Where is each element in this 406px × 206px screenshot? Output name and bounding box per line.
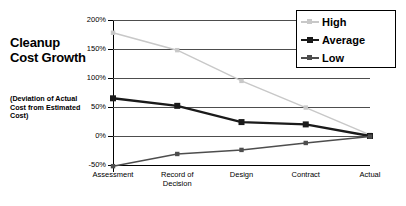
legend-label-low: Low — [322, 52, 344, 64]
x-axis-line — [113, 165, 370, 166]
gridline — [113, 136, 370, 137]
y-axis-tick — [108, 165, 113, 166]
chart-container: Cleanup Cost Growth (Deviation of Actual… — [0, 0, 406, 206]
data-point-average — [303, 121, 309, 127]
data-point-low — [239, 148, 243, 152]
y-axis-label: 200% — [76, 15, 106, 24]
legend-label-high: High — [322, 16, 346, 28]
y-axis-label: -50% — [76, 160, 106, 169]
x-axis-label: Assessment — [82, 170, 144, 179]
data-point-low — [304, 141, 308, 145]
legend-swatch-low — [301, 52, 319, 64]
series-line-average — [113, 98, 370, 136]
y-axis-tick — [108, 107, 113, 108]
legend-marker-average-icon — [307, 37, 313, 43]
y-axis-label: 50% — [76, 102, 106, 111]
y-axis-tick — [108, 136, 113, 137]
y-axis-tick — [108, 49, 113, 50]
y-axis-line — [113, 20, 114, 172]
x-axis-label: Design — [211, 170, 273, 179]
x-axis-label: Actual — [339, 170, 401, 179]
y-axis-label: 0% — [76, 131, 106, 140]
gridline — [113, 107, 370, 108]
y-axis-tick — [108, 20, 113, 21]
legend-item-average[interactable]: Average — [301, 31, 365, 48]
x-axis-label: Contract — [275, 170, 337, 179]
legend-swatch-average — [301, 34, 319, 46]
legend-item-high[interactable]: High — [301, 13, 346, 30]
legend-label-average: Average — [322, 34, 365, 46]
y-axis-tick — [108, 78, 113, 79]
series-line-low — [113, 137, 370, 167]
x-axis-label: Record ofDecision — [146, 170, 208, 188]
gridline — [113, 78, 370, 79]
legend-marker-low-icon — [307, 55, 312, 60]
legend-swatch-high — [301, 16, 319, 28]
y-axis-label: 150% — [76, 44, 106, 53]
data-point-low — [175, 152, 179, 156]
chart-legend: High Average Low — [296, 10, 396, 68]
legend-marker-high-icon — [307, 19, 312, 24]
data-point-average — [239, 119, 245, 125]
legend-item-low[interactable]: Low — [301, 49, 344, 66]
data-point-high — [239, 79, 243, 83]
y-axis-label: 100% — [76, 73, 106, 82]
